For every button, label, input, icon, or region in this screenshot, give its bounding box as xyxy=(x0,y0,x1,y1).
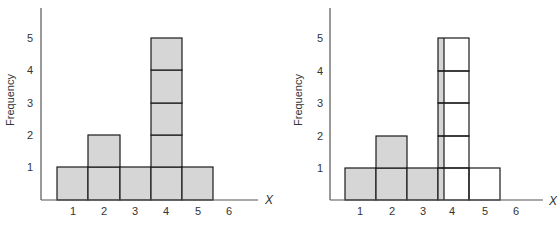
left-ytick-1: 1 xyxy=(27,161,33,173)
box-x2-2 xyxy=(88,135,120,167)
right-ytick-4: 4 xyxy=(317,65,323,77)
left-xtick-3: 3 xyxy=(132,205,138,217)
box-x4-1 xyxy=(151,167,182,200)
right-xlabel: X xyxy=(548,194,558,208)
cutoff-shaded-strip xyxy=(438,38,444,200)
left-xtick-4: 4 xyxy=(163,205,169,217)
box-x3-1 xyxy=(120,167,151,200)
box-x2-1 xyxy=(376,168,407,200)
box-x2-1 xyxy=(88,167,120,200)
right-histogram: 1 2 3 4 5 Frequency 1 2 3 4 5 6 X xyxy=(292,8,558,217)
right-unshaded-boxes xyxy=(438,38,500,200)
right-ytick-5: 5 xyxy=(317,32,323,44)
left-ytick-5: 5 xyxy=(27,32,33,44)
left-boxes xyxy=(57,38,213,200)
box-x4-2 xyxy=(151,135,182,167)
left-histogram: 1 2 3 4 5 Frequency 1 2 3 4 5 6 X xyxy=(4,8,274,217)
right-xtick-2: 2 xyxy=(389,205,395,217)
left-xtick-1: 1 xyxy=(70,205,76,217)
box-x5-1 xyxy=(182,167,213,200)
figure: 1 2 3 4 5 Frequency 1 2 3 4 5 6 X xyxy=(0,0,558,226)
box-x1-1 xyxy=(57,167,88,200)
left-ytick-3: 3 xyxy=(27,97,33,109)
right-ylabel: Frequency xyxy=(292,74,304,126)
left-xtick-6: 6 xyxy=(226,205,232,217)
box-x5-1 xyxy=(469,168,500,200)
box-x4-4 xyxy=(151,70,182,103)
right-xtick-1: 1 xyxy=(357,205,363,217)
left-xtick-5: 5 xyxy=(195,205,201,217)
left-xlabel: X xyxy=(264,193,274,207)
right-xtick-3: 3 xyxy=(420,205,426,217)
box-x2-2 xyxy=(376,136,407,168)
left-ytick-2: 2 xyxy=(27,129,33,141)
left-xtick-2: 2 xyxy=(101,205,107,217)
right-ytick-1: 1 xyxy=(317,162,323,174)
right-ytick-2: 2 xyxy=(317,130,323,142)
box-x4-5 xyxy=(151,38,182,70)
right-xtick-6: 6 xyxy=(513,205,519,217)
right-xtick-5: 5 xyxy=(482,205,488,217)
box-x1-1 xyxy=(345,168,376,200)
left-ytick-4: 4 xyxy=(27,64,33,76)
left-ylabel: Frequency xyxy=(4,74,16,126)
right-ytick-3: 3 xyxy=(317,97,323,109)
box-x4-3 xyxy=(151,103,182,135)
right-shaded-boxes xyxy=(345,136,438,200)
right-xtick-4: 4 xyxy=(449,205,455,217)
box-x3-1 xyxy=(407,168,438,200)
